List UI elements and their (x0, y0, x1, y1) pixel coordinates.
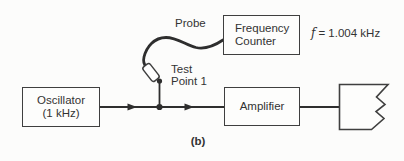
frequency-reading: f= 1.004 kHz (311, 28, 380, 40)
amplifier-block: Amplifier (224, 87, 300, 126)
probe-connector-icon (142, 63, 160, 83)
test-point-label: Test Point 1 (171, 64, 207, 87)
oscillator-block: Oscillator (1 kHz) (22, 87, 100, 127)
signal-tracing-block-diagram: Oscillator (1 kHz) Frequency Counter Amp… (0, 0, 404, 161)
arrowhead-icon-right (185, 103, 195, 110)
probe-label: Probe (175, 18, 206, 30)
test-point-label-line1: Test (171, 64, 207, 76)
figure-caption: (b) (167, 136, 229, 148)
frequency-symbol: f (311, 26, 315, 40)
amplifier-label: Amplifier (240, 100, 285, 114)
arrowhead-icon-left (128, 103, 138, 110)
frequency-counter-label-line1: Frequency (235, 22, 289, 36)
frequency-counter-label-line2: Counter (235, 35, 276, 49)
torn-edge-load-icon (340, 85, 389, 130)
test-point-label-line2: Point 1 (171, 76, 207, 88)
frequency-value: = 1.004 kHz (318, 27, 380, 39)
oscillator-label-line1: Oscillator (37, 94, 85, 108)
oscillator-label-line2: (1 kHz) (42, 107, 79, 121)
frequency-counter-block: Frequency Counter (223, 15, 300, 55)
